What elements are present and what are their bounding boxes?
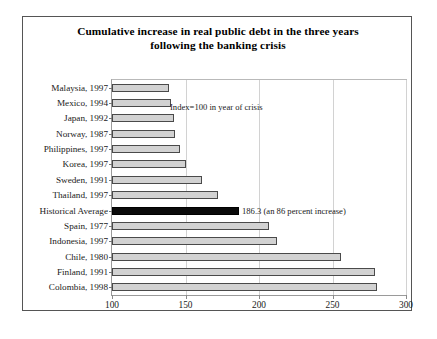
- y-axis-category-label: Spain, 1977: [64, 221, 108, 231]
- y-axis-tick: [109, 287, 112, 288]
- x-axis-tick-label: 100: [105, 300, 119, 311]
- y-axis-category-label: Japan, 1992: [64, 113, 108, 123]
- x-axis-tick: [333, 295, 334, 299]
- bar-row: Malaysia, 1997: [112, 80, 406, 95]
- gridline: [406, 80, 407, 295]
- y-axis-tick: [109, 211, 112, 212]
- y-axis-tick: [109, 272, 112, 273]
- bar: [112, 99, 171, 107]
- bar: [112, 283, 377, 291]
- y-axis-tick: [109, 149, 112, 150]
- bar-row: Norway, 1987: [112, 126, 406, 141]
- y-axis-tick: [109, 103, 112, 104]
- chart-title: Cumulative increase in real public debt …: [35, 24, 401, 52]
- y-axis-tick: [109, 118, 112, 119]
- x-axis-tick-label: 150: [178, 300, 192, 311]
- bar-row: Finland, 1991: [112, 264, 406, 279]
- bar: [112, 145, 180, 153]
- y-axis-category-label: Indonesia, 1997: [49, 236, 108, 246]
- bar-row: Spain, 1977: [112, 218, 406, 233]
- chart-title-line-2: following the banking crisis: [35, 38, 401, 52]
- bar: [112, 237, 277, 245]
- bar: [112, 191, 218, 199]
- annotation-average-note: 186.3 (an 86 percent increase): [242, 206, 346, 216]
- y-axis-tick: [109, 180, 112, 181]
- bar: [112, 222, 269, 230]
- x-axis-tick-label: 200: [252, 300, 266, 311]
- bar-series: Malaysia, 1997Mexico, 1994Japan, 1992Nor…: [112, 80, 406, 295]
- bar: [112, 130, 175, 138]
- y-axis-category-label: Norway, 1987: [56, 129, 108, 139]
- bar-row: Thailand, 1997: [112, 188, 406, 203]
- bar-row: Philippines, 1997: [112, 141, 406, 156]
- y-axis-category-label: Philippines, 1997: [44, 144, 108, 154]
- bar-row: Sweden, 1991: [112, 172, 406, 187]
- bar: [112, 114, 174, 122]
- y-axis-category-label: Malaysia, 1997: [51, 83, 108, 93]
- x-axis-tick: [259, 295, 260, 299]
- bar: [112, 84, 169, 92]
- bar: [112, 176, 202, 184]
- x-axis-tick: [186, 295, 187, 299]
- x-axis-tick: [406, 295, 407, 299]
- x-axis-tick-label: 300: [399, 300, 413, 311]
- bar: [112, 268, 375, 276]
- y-axis-category-label: Colombia, 1998: [49, 282, 108, 292]
- bar-highlight: [112, 207, 239, 215]
- y-axis-category-label: Mexico, 1994: [57, 98, 108, 108]
- y-axis-tick: [109, 134, 112, 135]
- plot-area: Malaysia, 1997Mexico, 1994Japan, 1992Nor…: [111, 79, 407, 296]
- x-axis-tick: [112, 295, 113, 299]
- bar-row: Korea, 1997: [112, 157, 406, 172]
- bar-row: Indonesia, 1997: [112, 234, 406, 249]
- bar: [112, 253, 341, 261]
- bar-row: Japan, 1992: [112, 111, 406, 126]
- bar-row: Colombia, 1998: [112, 280, 406, 295]
- y-axis-category-label: Thailand, 1997: [52, 190, 108, 200]
- y-axis-category-label: Korea, 1997: [63, 159, 108, 169]
- bar: [112, 160, 186, 168]
- annotation-index-note: Index=100 in year of crisis: [170, 102, 263, 112]
- y-axis-category-label: Finland, 1991: [57, 267, 108, 277]
- y-axis-category-label: Historical Average: [40, 206, 108, 216]
- x-axis-tick-label: 250: [325, 300, 339, 311]
- y-axis-tick: [109, 226, 112, 227]
- y-axis-tick: [109, 88, 112, 89]
- y-axis-tick: [109, 164, 112, 165]
- y-axis-category-label: Sweden, 1991: [56, 175, 108, 185]
- y-axis-tick: [109, 241, 112, 242]
- bar-row: Chile, 1980: [112, 249, 406, 264]
- y-axis-tick: [109, 257, 112, 258]
- chart-figure: Cumulative increase in real public debt …: [22, 16, 412, 311]
- y-axis-category-label: Chile, 1980: [65, 252, 108, 262]
- chart-title-line-1: Cumulative increase in real public debt …: [35, 24, 401, 38]
- y-axis-tick: [109, 195, 112, 196]
